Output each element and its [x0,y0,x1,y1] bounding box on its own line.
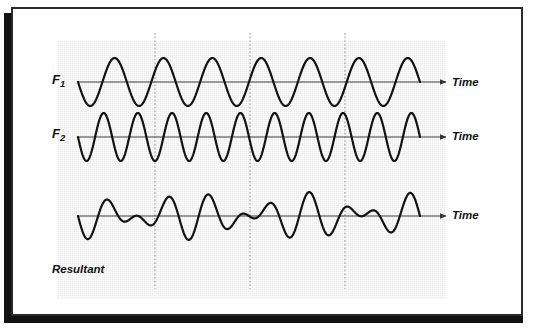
wave-label-f2-base: F [52,126,60,141]
wave-label-f2: F2 [52,127,65,143]
time-axis-label-resultant: Time [452,210,479,222]
plot-panel [57,41,446,299]
wave-label-f1-subscript: 1 [60,79,65,89]
time-axis-label-f2: Time [452,131,479,143]
wave-label-f1-base: F [52,72,60,87]
wave-label-f2-subscript: 2 [60,133,65,143]
time-axis-label-f1: Time [452,77,479,89]
wave-label-f1: F1 [52,73,65,89]
figure-root: F1 F2 Resultant Time Time Time [0,0,533,331]
wave-label-resultant: Resultant [52,264,104,276]
